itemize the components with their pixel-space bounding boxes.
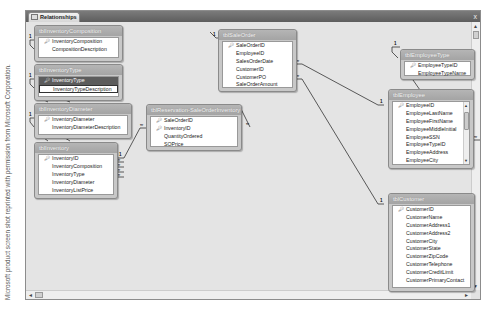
field-row[interactable]: CustomerZipCode (393, 253, 470, 261)
field-list: 🔑︎CustomerID CustomerName CustomerAddres… (392, 205, 471, 288)
cardinality-many: ∞ (474, 134, 477, 139)
field-row[interactable]: CustomerState (393, 245, 470, 253)
copyright-credit: Microsoft product screen shot reprinted … (2, 0, 14, 300)
field-list: 🔑︎InventoryComposition CompositionDescri… (38, 37, 119, 58)
field-name: CustomerAddress1 (406, 222, 450, 228)
field-row[interactable]: EmployeeMiddleInitial (393, 126, 469, 134)
tab-relationships[interactable]: Relationships (28, 12, 80, 22)
field-row[interactable]: CustomerAddress1 (393, 222, 470, 230)
field-name: CustomerTelephone (406, 261, 452, 267)
table-title[interactable]: tblInventoryDiameter (35, 104, 131, 114)
field-row[interactable]: CustomerID (223, 66, 292, 74)
field-row[interactable]: CompositionDescription (39, 46, 118, 54)
field-row[interactable]: 🔑︎CustomerID (393, 206, 470, 214)
field-name: EmployeeID (236, 50, 264, 56)
table-title[interactable]: tblEmployeeType (401, 50, 474, 60)
scroll-right-icon[interactable]: ► (464, 292, 469, 298)
cardinality-one: 1 (29, 112, 32, 117)
field-row[interactable]: EmployeeSSN (393, 134, 469, 142)
field-name: SOPrice (164, 141, 183, 147)
field-name: InventoryDiameterDescription (52, 124, 120, 130)
field-row[interactable]: CustomerPO (223, 74, 292, 82)
field-list: 🔑︎EmployeeID EmployeeLastName EmployeeFi… (392, 101, 470, 165)
key-icon: 🔑︎ (410, 62, 416, 70)
table-customer[interactable]: tblCustomer 🔑︎CustomerID CustomerName Cu… (388, 193, 475, 292)
table-scrollbar[interactable]: ▲ ▼ (463, 102, 469, 164)
table-inventory-composition[interactable]: tblInventoryComposition 🔑︎InventoryCompo… (34, 25, 123, 62)
table-inventory-diameter[interactable]: tblInventoryDiameter 🔑︎InventoryDiameter… (34, 103, 132, 139)
table-title[interactable]: tblCustomer (389, 194, 474, 204)
field-list: 🔑︎SaleOrderID EmployeeID SalesOrderDate … (222, 41, 293, 88)
field-row[interactable]: EmployeeLastName (393, 110, 469, 118)
table-title[interactable]: tblSaleOrder (219, 30, 296, 40)
scroll-down-icon[interactable]: ▼ (464, 158, 468, 163)
table-title[interactable]: tblReservation-SaleOrderInventory (147, 105, 241, 115)
field-name: InventoryTypeDescription (53, 86, 112, 92)
field-name: EmployeeSSN (406, 134, 440, 140)
key-icon: 🔑︎ (44, 155, 50, 163)
field-row[interactable]: InventoryTypeDescription (39, 85, 118, 93)
field-row[interactable]: 🔑︎SaleOrderID (151, 117, 237, 125)
field-row[interactable]: SOPrice (151, 141, 237, 149)
close-icon[interactable]: x (474, 11, 478, 22)
scroll-thumb[interactable] (35, 292, 43, 298)
field-name: CustomerPO (236, 74, 266, 80)
field-row[interactable]: InventoryType (39, 171, 113, 179)
table-reservation-saleorder-inventory[interactable]: tblReservation-SaleOrderInventory 🔑︎Sale… (146, 104, 242, 151)
field-name: CustomerPrimaryContact (406, 277, 464, 283)
field-row[interactable]: EmployeeID (223, 50, 292, 58)
key-icon: 🔑︎ (228, 42, 234, 50)
field-row[interactable]: 🔑︎InventoryID (151, 125, 237, 133)
field-row[interactable]: 🔑︎InventoryDiameter (39, 116, 127, 124)
table-title[interactable]: tblInventoryComposition (35, 26, 122, 36)
field-name: InventoryType (52, 77, 85, 83)
field-row[interactable]: SalesOrderDate (223, 58, 292, 66)
field-name: EmployeeTypeName (418, 70, 466, 76)
field-row[interactable]: CustomerAddress2 (393, 230, 470, 238)
field-row-selected[interactable]: 🔑︎InventoryType (39, 77, 118, 85)
field-name: InventoryID (52, 155, 79, 161)
field-row[interactable]: CustomerPrimaryContact (393, 277, 470, 285)
scroll-thumb[interactable] (473, 31, 479, 39)
scroll-up-icon[interactable]: ▲ (464, 103, 468, 108)
field-row[interactable]: QuantityOrdered (151, 133, 237, 141)
field-name: InventoryType (52, 171, 85, 177)
field-row[interactable]: CustomerCity (393, 238, 470, 246)
field-row[interactable]: InventoryComposition (39, 163, 113, 171)
field-row[interactable]: EmployeeTypeName (405, 70, 470, 78)
table-employee-type[interactable]: tblEmployeeType 🔑︎EmployeeTypeID Employe… (400, 49, 475, 80)
field-row[interactable]: EmployeeFirstName (393, 118, 469, 126)
field-row[interactable]: 🔑︎InventoryID (39, 155, 113, 163)
field-row[interactable]: EmployeeTypeID (393, 141, 469, 149)
field-name: EmployeeID (406, 102, 434, 108)
cardinality-one: 1 (29, 34, 32, 39)
field-row[interactable]: EmployeeCity (393, 157, 469, 165)
field-row[interactable]: InventoryDiameterDescription (39, 124, 127, 132)
table-title[interactable]: tblEmployee (389, 90, 473, 100)
key-icon: 🔑︎ (156, 125, 162, 133)
table-sale-order[interactable]: tblSaleOrder 🔑︎SaleOrderID EmployeeID Sa… (218, 29, 297, 92)
table-inventory-type[interactable]: tblInventoryType 🔑︎InventoryType Invento… (34, 64, 123, 101)
table-title[interactable]: tblInventory (35, 143, 117, 153)
field-row[interactable]: InventoryDiameter (39, 179, 113, 187)
field-row[interactable]: CustomerName (393, 214, 470, 222)
table-title[interactable]: tblInventoryType (35, 65, 122, 75)
field-name: InventoryDiameter (52, 116, 94, 122)
field-row[interactable]: 🔑︎SaleOrderID (223, 42, 292, 50)
scroll-up-icon[interactable]: ▲ (473, 23, 478, 29)
field-row[interactable]: SaleOrderAmount (223, 81, 292, 89)
field-row[interactable]: 🔑︎EmployeeTypeID (405, 62, 470, 70)
field-name: CustomerAddress2 (406, 230, 450, 236)
table-inventory[interactable]: tblInventory 🔑︎InventoryID InventoryComp… (34, 142, 118, 199)
field-row[interactable]: InventoryListPrice (39, 187, 113, 195)
field-row[interactable]: 🔑︎EmployeeID (393, 102, 469, 110)
scroll-left-icon[interactable]: ◄ (28, 292, 33, 298)
field-name: SaleOrderID (164, 117, 193, 123)
field-row[interactable]: CustomerTelephone (393, 261, 470, 269)
table-employee[interactable]: tblEmployee 🔑︎EmployeeID EmployeeLastNam… (388, 89, 474, 169)
field-row[interactable]: 🔑︎InventoryComposition (39, 38, 118, 46)
field-row[interactable]: CustomerCreditLimit (393, 269, 470, 277)
field-name: SaleOrderID (236, 42, 265, 48)
scroll-thumb[interactable] (464, 112, 469, 130)
field-row[interactable]: EmployeeAddress (393, 149, 469, 157)
